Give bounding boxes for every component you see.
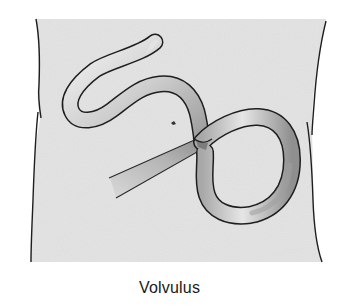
volvulus-figure: Volvulus <box>0 0 339 308</box>
abdomen-illustration <box>0 0 339 270</box>
figure-caption: Volvulus <box>0 279 339 297</box>
